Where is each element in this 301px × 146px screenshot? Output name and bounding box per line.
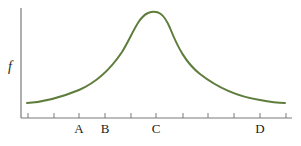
x-label-b: B (101, 121, 110, 136)
x-label-c: C (152, 121, 161, 136)
chart: f A B C D (0, 0, 301, 146)
x-ticks (28, 113, 286, 118)
y-axis-label: f (8, 59, 14, 74)
x-label-d: D (255, 121, 264, 136)
x-label-a: A (74, 121, 84, 136)
f-curve (27, 12, 285, 103)
